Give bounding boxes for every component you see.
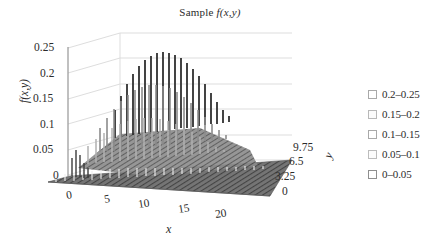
y-tick-3.25: 3.25 (275, 170, 295, 182)
legend-item[interactable]: 0.05–0.1 (368, 144, 438, 164)
y-tick-0: 0 (282, 185, 288, 197)
legend-item[interactable]: 0.15–0.2 (368, 104, 438, 124)
x-tick-20: 20 (214, 206, 227, 220)
legend-swatch-icon (368, 150, 377, 159)
legend-swatch-icon (368, 110, 377, 119)
legend-swatch-icon (368, 170, 377, 179)
z-axis-label: f(x,y) (16, 84, 32, 140)
legend-item[interactable]: 0–0.05 (368, 164, 438, 184)
z-tick-0.25: 0.25 (34, 41, 54, 53)
legend: 0.2–0.25 0.15–0.2 0.1–0.15 0.05–0.1 0–0.… (368, 84, 438, 184)
z-tick-0.15: 0.15 (33, 92, 53, 104)
legend-item[interactable]: 0.2–0.25 (368, 84, 438, 104)
y-tick-9.75: 9.75 (293, 141, 313, 153)
legend-item-label: 0.15–0.2 (382, 108, 420, 120)
y-tick-6.5: 6.5 (289, 155, 303, 167)
z-tick-0: 0 (53, 169, 59, 181)
z-tick-0.05: 0.05 (33, 143, 53, 155)
legend-item-label: 0–0.05 (382, 168, 412, 180)
x-axis-label: x (166, 222, 171, 237)
legend-item-label: 0.1–0.15 (382, 128, 420, 140)
legend-item-label: 0.05–0.1 (382, 148, 420, 160)
z-axis-label-text: f(x,y) (16, 87, 32, 103)
x-tick-10: 10 (137, 196, 150, 210)
surface-chart: Sample f(x,y) (0, 0, 440, 244)
z-tick-0.2: 0.2 (40, 67, 54, 79)
x-tick-15: 15 (177, 201, 190, 215)
legend-item-label: 0.2–0.25 (382, 88, 420, 100)
legend-swatch-icon (368, 130, 377, 139)
z-tick-0.1: 0.1 (40, 118, 54, 130)
legend-swatch-icon (368, 90, 377, 99)
legend-item[interactable]: 0.1–0.15 (368, 124, 438, 144)
